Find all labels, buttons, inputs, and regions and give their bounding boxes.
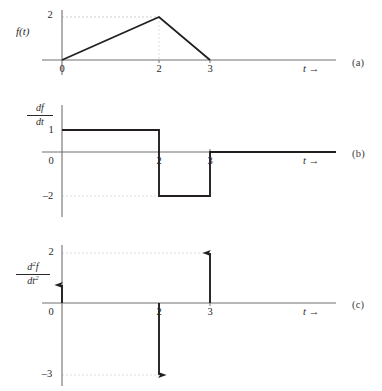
chart-a-xlabel: t →: [303, 62, 320, 74]
chart-c-den-exponent: 2: [35, 273, 39, 281]
figure-container: f(t) 2 0 2 3 t → (a) df dt 1 0 –2 2 3 t …: [0, 0, 382, 391]
chart-b-ytick-neg2: –2: [40, 190, 56, 201]
right-arrow-icon: →: [309, 154, 320, 166]
right-arrow-icon: →: [309, 305, 320, 317]
chart-a-tag: (a): [352, 57, 364, 68]
chart-a-ylabel: f(t): [16, 25, 29, 37]
chart-b-ytick-0: 0: [45, 155, 57, 166]
chart-a-xtick-2: 2: [153, 63, 165, 74]
chart-b-xlabel: t →: [303, 154, 320, 166]
chart-b-xtick-3: 3: [204, 155, 216, 166]
chart-c-den-dt: dt: [27, 275, 35, 286]
chart-c-ylabel-numerator: d2f: [16, 262, 50, 273]
chart-c-ylabel-denominator: dt2: [16, 276, 50, 287]
chart-c-plot: [0, 240, 382, 391]
chart-c-xtick-3: 3: [204, 306, 216, 317]
chart-c-num-f: f: [36, 261, 39, 272]
chart-b-plot: [0, 95, 382, 225]
chart-a-xtick-0: 0: [56, 63, 68, 74]
chart-c-ytick-2: 2: [45, 246, 57, 257]
chart-b-tag: (b): [352, 148, 365, 159]
chart-c-xtick-2: 2: [153, 306, 165, 317]
chart-a-xlabel-text: t: [303, 63, 306, 74]
right-arrow-icon: →: [309, 62, 320, 74]
chart-c-xlabel-text: t: [303, 306, 306, 317]
chart-c-ylabel: d2f dt2: [16, 262, 50, 286]
chart-b-ytick-1: 1: [45, 124, 57, 135]
chart-c-xlabel: t →: [303, 305, 320, 317]
chart-a-ytick-2: 2: [44, 9, 56, 20]
chart-a-xtick-3: 3: [204, 63, 216, 74]
chart-c-ytick-0: 0: [45, 306, 57, 317]
chart-a-plot: [0, 0, 382, 95]
chart-c-tag: (c): [352, 299, 364, 310]
chart-b-xlabel-text: t: [303, 155, 306, 166]
chart-b-ylabel-numerator: df: [27, 103, 53, 114]
chart-b-xtick-2: 2: [153, 155, 165, 166]
chart-c-ytick-neg3: –3: [39, 368, 55, 379]
